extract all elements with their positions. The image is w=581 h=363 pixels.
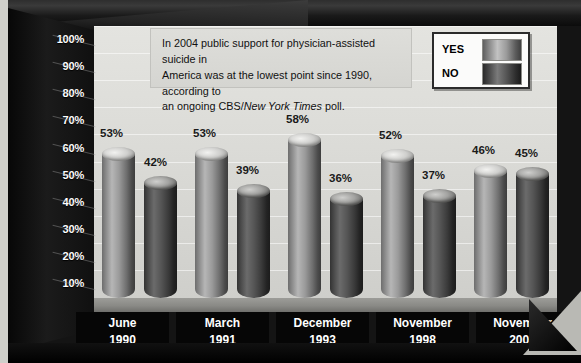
callout-line-3-pre: an ongoing CBS/ bbox=[162, 100, 244, 112]
value-label-yes-1990: 53% bbox=[100, 127, 123, 139]
bar-top-ellipse bbox=[381, 149, 414, 163]
bar-yes-1990 bbox=[102, 147, 135, 298]
bar-body bbox=[423, 196, 456, 298]
bar-body bbox=[102, 154, 135, 298]
bar-body bbox=[144, 183, 177, 298]
bar-top-ellipse bbox=[102, 147, 135, 161]
x-label-month: December bbox=[276, 315, 369, 332]
value-label-yes-1991: 53% bbox=[193, 127, 216, 139]
value-label-no-2004: 45% bbox=[515, 147, 538, 159]
bar-body bbox=[288, 140, 321, 298]
x-label-month: March bbox=[176, 315, 269, 332]
value-label-yes-1998: 52% bbox=[379, 129, 402, 141]
bar-body bbox=[237, 191, 270, 298]
callout-line-2: America was at the lowest point since 19… bbox=[162, 68, 401, 100]
legend-swatch-no bbox=[482, 63, 522, 85]
chart-canvas: 53% 42% 53% 39% 58% 36% 52% 37% 46% 45% … bbox=[0, 0, 581, 363]
legend-label-yes: YES bbox=[442, 43, 464, 55]
x-label-month: June bbox=[76, 315, 169, 332]
legend-row-no: NO bbox=[440, 63, 522, 85]
value-label-no-1998: 37% bbox=[422, 169, 445, 181]
annotation-callout: In 2004 public support for physician-ass… bbox=[150, 28, 412, 88]
callout-line-3: an ongoing CBS/New York Times poll. bbox=[162, 99, 401, 115]
bar-top-ellipse bbox=[288, 133, 321, 147]
bar-top-ellipse bbox=[144, 176, 177, 190]
bar-no-2004 bbox=[516, 167, 549, 298]
frame-bottom-bevel bbox=[8, 343, 581, 363]
bar-yes-2004 bbox=[474, 164, 507, 298]
bar-no-1990 bbox=[144, 176, 177, 298]
value-label-yes-2004: 46% bbox=[472, 144, 495, 156]
bar-yes-1998 bbox=[381, 149, 414, 298]
legend-row-yes: YES bbox=[440, 39, 522, 61]
bar-body bbox=[195, 154, 228, 298]
bar-top-ellipse bbox=[237, 184, 270, 198]
bar-body bbox=[516, 174, 549, 298]
bar-no-1991 bbox=[237, 184, 270, 298]
chart-floor bbox=[94, 298, 557, 312]
value-label-no-1993: 36% bbox=[329, 172, 352, 184]
bar-top-ellipse bbox=[516, 167, 549, 181]
bar-yes-1993 bbox=[288, 133, 321, 298]
callout-line-3-post: poll. bbox=[322, 100, 345, 112]
bar-yes-1991 bbox=[195, 147, 228, 298]
gridline bbox=[94, 134, 557, 135]
gridline bbox=[94, 26, 557, 27]
bar-no-1993 bbox=[330, 192, 363, 298]
bar-top-ellipse bbox=[330, 192, 363, 206]
bar-body bbox=[330, 199, 363, 298]
legend-swatch-yes bbox=[482, 39, 522, 61]
callout-publication-name: New York Times bbox=[244, 100, 322, 112]
bar-body bbox=[381, 156, 414, 298]
chart-legend: YES NO bbox=[432, 32, 530, 89]
bar-top-ellipse bbox=[474, 164, 507, 178]
legend-label-no: NO bbox=[442, 67, 459, 79]
callout-line-1: In 2004 public support for physician-ass… bbox=[162, 36, 401, 68]
bar-body bbox=[474, 171, 507, 298]
bar-top-ellipse bbox=[423, 189, 456, 203]
x-label-month: November bbox=[376, 315, 469, 332]
bar-top-ellipse bbox=[195, 147, 228, 161]
value-label-no-1991: 39% bbox=[236, 164, 259, 176]
bar-no-1998 bbox=[423, 189, 456, 298]
value-label-no-1990: 42% bbox=[144, 156, 167, 168]
